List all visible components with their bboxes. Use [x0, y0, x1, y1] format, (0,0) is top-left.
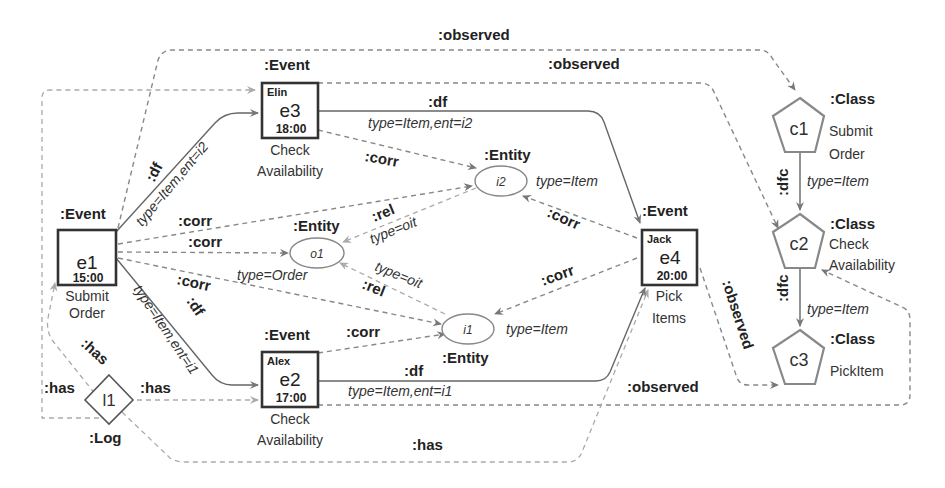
- label-has-l1-e1: :has: [78, 335, 112, 368]
- event-id: e1: [76, 252, 97, 273]
- label-observed-top: :observed: [438, 26, 510, 43]
- class-id: c3: [789, 350, 808, 370]
- label-corr-e2-i1: :corr: [346, 323, 380, 340]
- event-type-label: :Event: [264, 326, 310, 343]
- log-id: l1: [102, 391, 115, 410]
- label-has-l1-e4: :has: [412, 436, 443, 453]
- event-time: 20:00: [657, 269, 688, 283]
- event-activity-line2: Order: [69, 305, 105, 321]
- label-df-e2-e4-attr: type=Item,ent=i1: [348, 383, 452, 399]
- entity-node-i1[interactable]: i1 type=Item :Entity: [442, 314, 568, 366]
- label-corr-e1-i1: :corr: [175, 270, 212, 294]
- class-name-line2: Order: [829, 146, 865, 162]
- event-id: e4: [659, 247, 681, 268]
- label-rel-i1-o1: :rel: [360, 275, 388, 300]
- entity-attr: type=Item: [536, 173, 598, 189]
- event-id: e2: [279, 369, 300, 390]
- event-type-label: :Event: [642, 202, 688, 219]
- label-df-e1-e2: :df: [184, 293, 209, 319]
- event-activity-line1: Check: [270, 411, 311, 427]
- event-type-label: :Event: [60, 205, 106, 222]
- label-corr-e4-i2: :corr: [545, 203, 583, 232]
- class-type-label: :Class: [830, 90, 875, 107]
- label-df-e3-e4: :df: [428, 93, 448, 110]
- class-type-label: :Class: [830, 215, 875, 232]
- event-activity-line1: Pick: [656, 288, 683, 304]
- label-df-e3-e4-attr: type=Item,ent=i2: [368, 115, 473, 131]
- event-id: e3: [279, 100, 300, 121]
- class-name-line2: Availability: [829, 257, 895, 273]
- entity-id: o1: [310, 247, 323, 261]
- event-node-e2[interactable]: :Event Alex e2 17:00 Check Availability: [257, 326, 323, 448]
- event-actor: Alex: [267, 355, 291, 367]
- label-has-l1-e2: :has: [140, 379, 171, 396]
- entity-id: i2: [496, 175, 506, 189]
- entity-node-o1[interactable]: :Entity o1 type=Order: [237, 217, 344, 283]
- event-node-e3[interactable]: :Event Elin e3 18:00 Check Availability: [257, 56, 323, 179]
- label-corr-e4-i1: :corr: [538, 261, 576, 289]
- event-node-e4[interactable]: :Event Jack e4 20:00 Pick Items: [642, 202, 697, 326]
- label-dfc-c2-c3: :dfc: [774, 275, 791, 303]
- log-node-l1[interactable]: l1 :Log: [85, 375, 133, 446]
- event-actor: Jack: [647, 233, 672, 245]
- entity-attr: type=Order: [237, 267, 309, 283]
- edge-has-l1-e4: [122, 290, 648, 462]
- label-observed-e3-c2: :observed: [548, 55, 620, 72]
- label-df-e2-e4: :df: [404, 362, 424, 379]
- class-id: c1: [789, 119, 808, 139]
- event-activity-line2: Availability: [257, 163, 323, 179]
- entity-type-label: :Entity: [293, 217, 340, 234]
- event-time: 15:00: [73, 271, 104, 285]
- entity-id: i1: [463, 323, 472, 337]
- event-time: 18:00: [276, 122, 307, 136]
- class-name-line1: Check: [829, 236, 870, 252]
- label-dfc-c1-c2-attr: type=Item: [807, 173, 869, 189]
- event-actor: Elin: [267, 86, 287, 98]
- event-time: 17:00: [276, 391, 307, 405]
- class-name-line1: Submit: [829, 123, 873, 139]
- label-has-l1-e3: :has: [44, 379, 75, 396]
- edge-corr-e2-i1: [318, 334, 445, 353]
- event-activity-line2: Availability: [257, 432, 323, 448]
- class-node-c2[interactable]: c2 :Class Check Availability: [773, 214, 895, 273]
- label-corr-e3-i2: :corr: [363, 147, 400, 170]
- label-dfc-c1-c2: :dfc: [774, 169, 791, 197]
- log-type-label: :Log: [89, 429, 121, 446]
- event-type-label: :Event: [264, 56, 310, 73]
- label-corr-e1-i2: :corr: [178, 212, 212, 229]
- class-name-line1: PickItem: [830, 363, 884, 379]
- event-node-e1[interactable]: :Event e1 15:00 Submit Order: [58, 205, 116, 321]
- event-knowledge-graph-diagram: :observed :observed :observed :observed …: [0, 0, 945, 488]
- label-observed-e2-c2: :observed: [627, 378, 699, 395]
- edge-df-e3-e4: [318, 111, 640, 223]
- label-dfc-c2-c3-attr: type=Item: [807, 301, 869, 317]
- event-activity-line1: Check: [270, 142, 311, 158]
- edge-corr-e1-o1: [118, 252, 288, 253]
- label-corr-e1-o1: :corr: [188, 233, 222, 250]
- entity-node-i2[interactable]: :Entity i2 type=Item: [475, 146, 598, 196]
- entity-attr: type=Item: [506, 321, 568, 337]
- event-activity-line1: Submit: [65, 288, 109, 304]
- entity-type-label: :Entity: [484, 146, 531, 163]
- event-activity-line2: Items: [652, 310, 686, 326]
- class-node-c3[interactable]: c3 :Class PickItem: [773, 330, 884, 384]
- class-type-label: :Class: [830, 330, 875, 347]
- class-node-c1[interactable]: c1 :Class Submit Order: [773, 90, 875, 162]
- edge-observed-e1-c1: [118, 50, 795, 228]
- class-id: c2: [789, 234, 808, 254]
- entity-type-label: :Entity: [442, 349, 489, 366]
- label-df-e1-e2-attr: type=Item,ent=i1: [131, 282, 203, 377]
